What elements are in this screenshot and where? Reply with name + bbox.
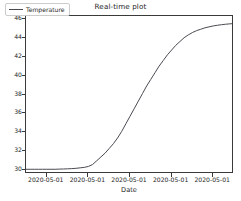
x-tick-label: 2020-05-01	[183, 176, 241, 183]
x-tick-mark	[46, 173, 47, 177]
plot-area	[25, 15, 233, 173]
chart-legend: Temperature	[5, 3, 70, 16]
y-tick-mark	[22, 112, 26, 113]
y-tick-label: 42	[4, 53, 22, 59]
x-tick-mark	[171, 173, 172, 177]
y-tick-mark	[22, 94, 26, 95]
y-tick-label: 36	[4, 109, 22, 115]
y-tick-mark	[22, 18, 26, 19]
y-tick-label: 38	[4, 91, 22, 97]
legend-label: Temperature	[26, 6, 65, 13]
y-tick-mark	[22, 150, 26, 151]
y-tick-mark	[22, 75, 26, 76]
y-tick-label: 32	[4, 147, 22, 153]
y-tick-label: 30	[4, 166, 22, 172]
y-tick-mark	[22, 169, 26, 170]
y-tick-mark	[22, 37, 26, 38]
x-tick-mark	[212, 173, 213, 177]
legend-line-swatch	[9, 9, 23, 10]
y-tick-mark	[22, 131, 26, 132]
y-tick-label: 34	[4, 128, 22, 134]
x-tick-mark	[87, 173, 88, 177]
y-tick-label: 44	[4, 34, 22, 40]
y-tick-mark	[22, 56, 26, 57]
x-axis-label: Date	[25, 186, 233, 194]
temperature-line-series	[26, 16, 233, 173]
chart-figure: Real-time plot 303234363840424446 2020-0…	[0, 0, 241, 201]
y-tick-label: 40	[4, 72, 22, 78]
x-tick-mark	[129, 173, 130, 177]
